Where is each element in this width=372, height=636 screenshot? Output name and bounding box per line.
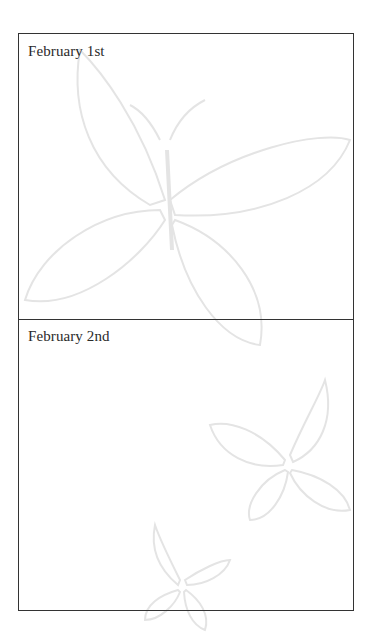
day-section-feb-2[interactable]: February 2nd	[19, 320, 353, 610]
day-label: February 1st	[28, 43, 105, 60]
day-section-feb-1[interactable]: February 1st	[19, 34, 353, 320]
daily-planner-frame: February 1st February 2nd	[18, 33, 354, 611]
day-label: February 2nd	[28, 328, 110, 345]
